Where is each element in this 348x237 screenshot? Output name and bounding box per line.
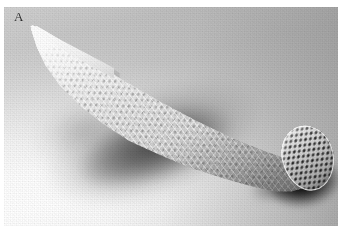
- film-grain-fine: [4, 7, 338, 226]
- panel-label: A: [14, 10, 24, 23]
- figure-panel: A: [0, 0, 348, 237]
- micrograph-photo: [4, 7, 338, 226]
